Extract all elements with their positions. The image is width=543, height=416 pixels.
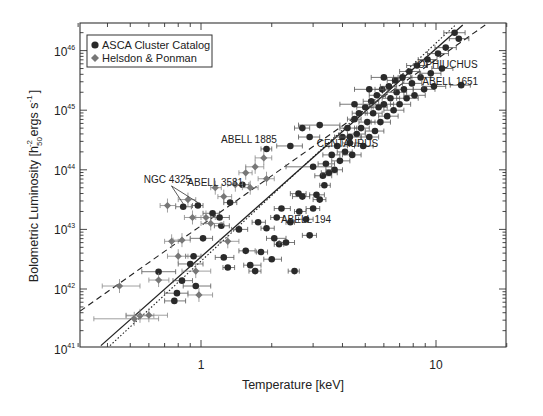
annotation-label: ABELL 1651 [422,76,478,87]
data-point [320,172,327,179]
data-point [377,119,384,126]
data-point [306,134,313,141]
data-point [384,113,391,120]
y-axis-title-end: ] [27,90,41,93]
y-axis-title-sup2: -1 [25,95,34,103]
data-point [171,298,178,305]
data-point [190,253,197,260]
data-point [310,164,317,171]
data-point [442,44,449,51]
data-point [247,262,254,269]
data-point [399,74,406,81]
data-point [321,182,328,189]
annotation-label: ABELL 3581 [187,177,243,188]
data-point [387,95,394,102]
data-point [316,122,323,129]
x-axis-title: Temperature [keV] [242,378,344,392]
data-point [381,101,388,108]
data-point [390,107,397,114]
data-point [227,199,234,206]
data-point [255,219,262,226]
data-point [370,110,377,117]
data-point [406,68,413,75]
data-point [411,92,418,99]
data-point [271,235,278,242]
data-point [306,232,313,239]
data-point [299,125,306,132]
data-point [356,110,363,117]
data-point [401,86,408,93]
annotation-label: ABELL 1885 [221,134,277,145]
data-point [381,74,388,81]
data-point [220,254,227,261]
data-point [278,205,285,212]
data-point [386,83,393,90]
data-point [216,214,223,221]
data-point [353,131,360,138]
data-point [331,167,338,174]
data-point [287,143,294,150]
data-point [236,226,243,233]
data-point [242,248,249,255]
data-point [372,128,379,135]
data-point [455,35,462,42]
data-point [268,256,275,263]
data-point [374,92,381,99]
y-axis-title-rest: ergs s [27,102,41,140]
data-point [403,95,410,102]
data-point [263,146,270,153]
data-point [364,119,371,126]
data-point [362,104,369,111]
data-point [351,116,358,123]
data-point [252,268,259,275]
x-tick-label: 10 [429,358,443,372]
y-axis-title-main: Bolometric Luminosity [h [27,146,41,282]
data-point [187,261,194,268]
data-point [310,205,317,212]
data-point [344,125,351,132]
data-point [291,268,298,275]
data-point [351,101,358,108]
data-point [392,77,399,84]
data-point [283,239,290,246]
legend-label-helsdon: Helsdon & Ponman [102,52,197,64]
lx-t-scatter-chart: 104110421043104410451046 110 Temperature… [0,0,543,416]
data-point [337,158,344,165]
data-point [366,86,373,93]
data-point [409,80,416,87]
x-tick-label: 1 [198,358,205,372]
data-point [316,196,323,203]
data-point [200,235,207,242]
data-point [179,277,186,284]
annotation-label: OPHIUCHUS [418,59,478,70]
data-point [258,249,265,256]
circle-marker-icon [91,41,98,48]
annotation-label: CENTAURUS [317,138,379,149]
data-point [273,214,280,221]
data-point [451,29,458,36]
annotation-label: ABELL 194 [281,214,332,225]
data-point [326,169,333,176]
data-point [349,152,356,159]
legend-label-asca: ASCA Cluster Catalog [102,39,210,51]
data-point [393,89,400,96]
data-point [396,101,403,108]
data-point [435,50,442,57]
data-point [263,225,270,232]
data-point [192,283,199,290]
data-point [195,202,202,209]
annotation-label: NGC 4325 [144,174,192,185]
data-point [358,125,365,132]
data-point [180,203,187,210]
data-point [224,264,231,271]
data-point [299,193,306,200]
legend: ASCA Cluster Catalog Helsdon & Ponman [87,35,212,67]
data-point [328,152,335,159]
data-point [323,161,330,168]
data-point [174,290,181,297]
